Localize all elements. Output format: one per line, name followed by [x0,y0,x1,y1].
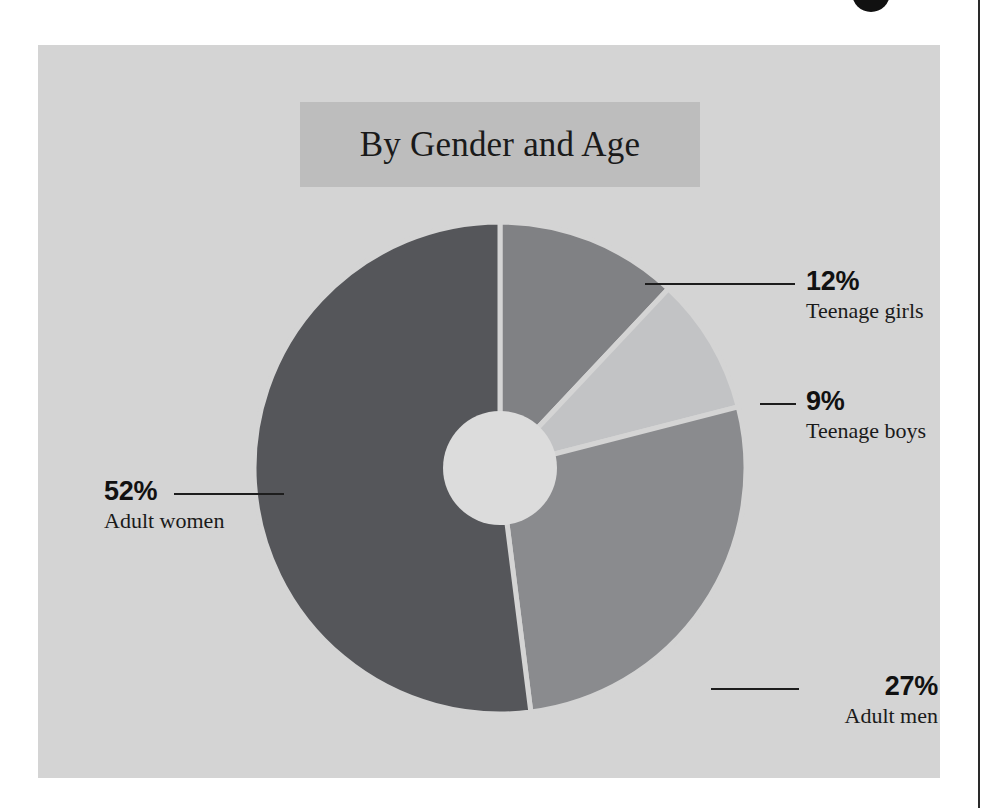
callout-adult-men: 27% Adult men [738,672,938,730]
callout-value-teenage-boys: 9% [806,387,926,415]
callout-label-adult-men: Adult men [738,702,938,730]
callout-label-teenage-girls: Teenage girls [806,297,924,325]
donut-center-hole [443,411,557,525]
callout-teenage-girls: 12% Teenage girls [806,267,924,325]
page-background: By Gender and Age 12% Teenage girls 9% T… [0,0,985,808]
donut-chart-svg [254,222,746,714]
callout-label-teenage-boys: Teenage boys [806,417,926,445]
chart-title-banner: By Gender and Age [300,102,700,187]
donut-chart [254,222,746,714]
leader-line-teenage-boys [760,403,796,405]
callout-teenage-boys: 9% Teenage boys [806,387,926,445]
callout-label-adult-women: Adult women [104,507,224,535]
chart-canvas: By Gender and Age 12% Teenage girls 9% T… [38,45,940,778]
page-right-rule [978,0,980,808]
corner-badge-icon [852,0,890,12]
leader-line-teenage-girls [645,283,795,285]
callout-value-adult-women: 52% [104,477,224,505]
callout-adult-women: 52% Adult women [104,477,224,535]
callout-value-adult-men: 27% [738,672,938,700]
page-title: By Gender and Age [360,125,640,165]
callout-value-teenage-girls: 12% [806,267,924,295]
